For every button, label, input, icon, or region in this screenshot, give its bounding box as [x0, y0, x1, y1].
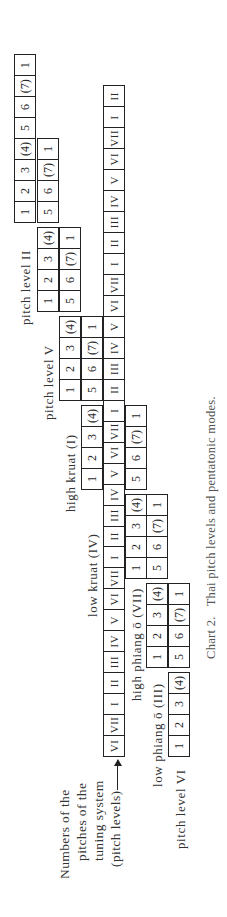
degree-cell: 2 — [14, 180, 36, 202]
pitch-cell: VI — [103, 148, 125, 170]
mode-row-high-phiang: 1 2 3 (4) — [125, 494, 147, 579]
degree-cell: 2 — [168, 714, 190, 736]
pitch-cell: II — [103, 232, 125, 254]
degree-cell: (7) — [37, 159, 59, 181]
degree-cell: 1 — [146, 646, 168, 668]
pitch-cell: IV — [103, 483, 125, 505]
mode-row-high-phiang-upper: 5 6 (7) 1 — [125, 405, 147, 490]
pitch-cell: VII — [103, 567, 125, 589]
degree-cell: 6 — [125, 447, 147, 469]
degree-cell: (4) — [125, 494, 147, 516]
degree-cell: (4) — [81, 405, 103, 427]
pitch-cell: II — [103, 525, 125, 547]
pitch-cell: VI — [103, 295, 125, 317]
mode-label: low phiang ō (III) — [150, 683, 166, 787]
degree-cell: (4) — [14, 138, 36, 160]
degree-cell: 1 — [168, 583, 190, 605]
chart-caption: Chart 2.Thai pitch levels and pentatonic… — [204, 396, 219, 659]
pitch-cell: VI — [103, 441, 125, 463]
pitch-cell: II — [103, 379, 125, 401]
mode-row-pitch-level-vi: 1 2 3 (4) — [168, 672, 190, 757]
degree-cell: 2 — [81, 447, 103, 469]
pitch-cell: V — [103, 609, 125, 631]
degree-cell: 2 — [59, 358, 81, 380]
pitch-cell: V — [103, 316, 125, 338]
rotated-page: Numbers of the pitches of the tuning sys… — [0, 0, 227, 917]
pitch-cell: III — [103, 358, 125, 380]
degree-cell: 5 — [146, 557, 168, 579]
degree-cell: 6 — [37, 180, 59, 202]
pitch-cell: II — [103, 85, 125, 107]
pitch-cell: IV — [103, 630, 125, 652]
degree-cell: 2 — [37, 269, 59, 291]
degree-cell: 6 — [14, 96, 36, 118]
pitch-cell: V — [103, 169, 125, 191]
degree-cell: 3 — [125, 515, 147, 537]
pitch-level-row: VI VII I II III IV V VI VII I II III IV … — [103, 85, 125, 757]
degree-cell: 5 — [168, 646, 190, 668]
degree-cell: 6 — [81, 358, 103, 380]
mode-row-pitch-level-vi-upper: 5 6 (7) 1 — [168, 583, 190, 668]
degree-cell: (4) — [59, 316, 81, 338]
pitch-cell: I — [103, 400, 125, 422]
degree-cell: 5 — [37, 201, 59, 223]
pitch-cell: IV — [103, 337, 125, 359]
degree-cell: (7) — [146, 515, 168, 537]
pitch-cell: III — [103, 651, 125, 673]
degree-cell: 6 — [168, 625, 190, 647]
mode-label: pitch level V — [41, 345, 57, 420]
degree-cell: 5 — [125, 468, 147, 490]
mode-label: pitch level VI — [173, 769, 189, 849]
pitch-cell: II — [103, 672, 125, 694]
arrow-right-icon — [117, 760, 118, 790]
mode-row-low-phiang-upper: 5 6 (7) 1 — [146, 494, 168, 579]
degree-cell: 6 — [146, 536, 168, 558]
pitch-cell: VII — [103, 274, 125, 296]
caption-text: Thai pitch levels and pentatonic modes. — [204, 396, 218, 606]
mode-row-high-kruat: 1 2 3 (4) — [59, 316, 81, 401]
degree-cell: 1 — [125, 405, 147, 427]
degree-cell: 2 — [125, 536, 147, 558]
degree-cell: (4) — [168, 672, 190, 694]
pitch-cell: III — [103, 211, 125, 233]
pitch-cell: I — [103, 253, 125, 275]
degree-cell: 2 — [146, 625, 168, 647]
degree-cell: (7) — [168, 604, 190, 626]
pitch-numbers-legend: Numbers of the pitches of the tuning sys… — [56, 780, 124, 879]
mode-row-low-kruat-upper: 5 6 (7) 1 — [81, 316, 103, 401]
legend-line: pitches of the — [73, 780, 90, 879]
pitch-cell: I — [103, 546, 125, 568]
degree-cell: 1 — [37, 290, 59, 312]
pitch-cell: V — [103, 462, 125, 484]
legend-line: (pitch levels) — [107, 780, 124, 879]
pitch-cell: VI — [103, 735, 125, 757]
degree-cell: 3 — [81, 426, 103, 448]
pitch-cell: VII — [103, 420, 125, 442]
mode-row-pitch-level-v: 1 2 3 (4) — [37, 227, 59, 312]
pitch-cell: VII — [103, 714, 125, 736]
mode-row-low-phiang: 1 2 3 (4) — [146, 583, 168, 668]
degree-cell: 5 — [81, 379, 103, 401]
mode-row-pitch-level-ii: 1 2 3 (4) 5 6 (7) 1 — [14, 54, 36, 223]
degree-cell: 1 — [125, 557, 147, 579]
degree-cell: 1 — [168, 735, 190, 757]
pitch-cell: VI — [103, 588, 125, 610]
degree-cell: (7) — [81, 337, 103, 359]
degree-cell: 1 — [59, 379, 81, 401]
degree-cell: 1 — [81, 468, 103, 490]
degree-cell: (4) — [146, 583, 168, 605]
mode-label: pitch level II — [18, 250, 34, 325]
mode-label: low kruat (IV) — [85, 534, 101, 618]
pitch-cell: III — [103, 504, 125, 526]
degree-cell: 1 — [14, 201, 36, 223]
mode-row-low-kruat: 1 2 3 (4) — [81, 405, 103, 490]
pitch-cell: IV — [103, 190, 125, 212]
degree-cell: 5 — [59, 290, 81, 312]
degree-cell: (4) — [37, 227, 59, 249]
degree-cell: 1 — [14, 54, 36, 76]
pitch-cell: I — [103, 693, 125, 715]
mode-label: high kruat (I) — [63, 434, 79, 512]
legend-line: tuning system — [90, 780, 107, 879]
degree-cell: 3 — [14, 159, 36, 181]
degree-cell: 5 — [14, 117, 36, 139]
